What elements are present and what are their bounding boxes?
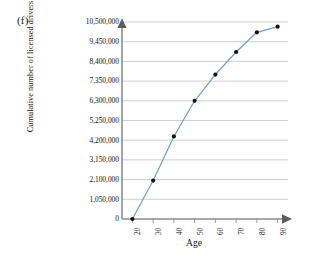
y-tick-label: 8,400,000 xyxy=(89,58,119,65)
data-point xyxy=(234,50,238,54)
x-axis-title-text: Age xyxy=(186,238,202,248)
y-tick-label: 10,500,000 xyxy=(86,18,119,25)
y-tick-label: 6,300,000 xyxy=(89,97,119,104)
data-point xyxy=(213,72,217,76)
x-tick-label: 50 xyxy=(198,228,205,235)
data-point xyxy=(276,25,280,29)
y-tick-label: 7,350,000 xyxy=(89,77,119,84)
figure-panel: (f) Cumulative number of licensed driver… xyxy=(0,0,310,260)
x-tick-label: 60 xyxy=(218,228,225,235)
x-axis-title: Age xyxy=(0,238,310,248)
data-point xyxy=(172,134,176,138)
gridlines xyxy=(122,22,288,199)
y-tick-label: 5,250,000 xyxy=(89,117,119,124)
data-series-line xyxy=(132,27,277,219)
y-tick-label: 1,050,000 xyxy=(89,196,119,203)
x-tick-label: 30 xyxy=(156,228,163,235)
y-tick-label: 3,150,000 xyxy=(89,156,119,163)
x-tick-label: 20 xyxy=(135,228,142,235)
axes xyxy=(117,19,292,224)
plot-area xyxy=(122,22,288,219)
x-tick-label: 80 xyxy=(260,228,267,235)
y-axis-title: Cumulative number of licensed drivers xyxy=(26,0,35,154)
x-tick-label: 90 xyxy=(281,228,288,235)
data-point xyxy=(151,178,155,182)
y-tick-label: 9,450,000 xyxy=(89,38,119,45)
y-tick-label: 2,100,000 xyxy=(89,176,119,183)
y-tick-label: 4,200,000 xyxy=(89,137,119,144)
data-points xyxy=(130,25,279,222)
data-point xyxy=(193,99,197,103)
x-tick-label: 70 xyxy=(239,228,246,235)
y-tick-label: 0 xyxy=(115,215,119,222)
data-point xyxy=(255,30,259,34)
y-axis-tick-labels: 01,050,0002,100,0003,150,0004,200,0005,2… xyxy=(40,22,119,219)
x-tick-label: 40 xyxy=(177,228,184,235)
chart-svg xyxy=(122,22,288,219)
